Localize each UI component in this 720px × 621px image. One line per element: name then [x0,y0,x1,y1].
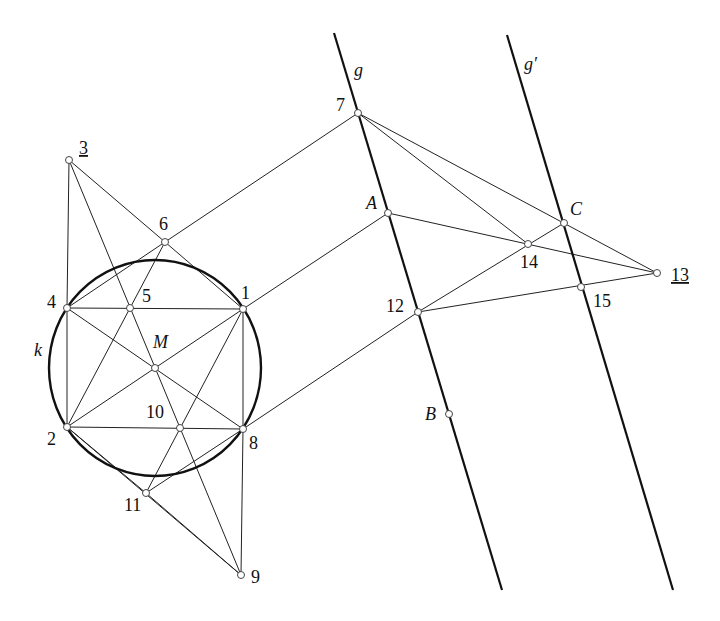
point-M [152,365,159,372]
point-label-3: 3 [79,138,88,158]
segment-7-13 [358,113,657,273]
line-g-prime [507,35,673,590]
segment-11-9 [146,493,241,575]
point-9 [238,572,245,579]
point-label-1: 1 [241,283,250,303]
segment-4-1 [67,308,243,309]
segment-8-9 [241,429,243,575]
point-label-6: 6 [159,214,168,234]
point-label-B: B [425,404,436,424]
point-label-4: 4 [47,292,56,312]
segment-7-14 [358,113,528,244]
circle-label-k: k [34,340,43,360]
point-6 [162,239,169,246]
line-label-g-prime: g′ [524,54,538,74]
point-1 [240,306,247,313]
line-label-g: g [354,60,363,80]
point-10 [177,425,184,432]
labels: k g g′ 123456789101112131415MABC [34,54,689,587]
point-label-5: 5 [142,286,151,306]
point-B [446,411,453,418]
point-label-12: 12 [386,296,404,316]
point-5 [127,305,134,312]
point-13 [654,270,661,277]
geometry-diagram: k g g′ 123456789101112131415MABC [0,0,720,621]
segment-11-2 [67,427,146,493]
segment-12-13 [418,273,657,312]
parallel-lines [334,33,673,590]
segment-8-11 [146,429,243,493]
point-12 [415,309,422,316]
segment-6-1 [165,242,243,309]
segment-6-2 [67,242,165,427]
point-3 [66,157,73,164]
point-label-10: 10 [146,402,164,422]
point-4 [64,305,71,312]
point-label-9: 9 [251,567,260,587]
point-label-2: 2 [47,429,56,449]
segment-1-A [243,213,388,309]
point-label-C: C [570,199,583,219]
point-label-M: M [152,332,169,352]
point-label-14: 14 [520,252,538,272]
point-label-7: 7 [336,95,345,115]
segment-3-4 [67,160,69,308]
point-7 [355,110,362,117]
segment-2-8 [67,427,243,429]
point-label-11: 11 [124,495,141,515]
point-14 [525,241,532,248]
point-C [561,220,568,227]
segment-8-12 [243,312,418,429]
point-11 [143,490,150,497]
point-label-A: A [365,193,378,213]
point-8 [240,426,247,433]
point-2 [64,424,71,431]
segment-3-6 [69,160,165,242]
point-label-8: 8 [249,433,258,453]
point-label-13: 13 [671,265,689,285]
point-label-15: 15 [593,291,611,311]
segment-6-7 [165,113,358,242]
point-15 [578,284,585,291]
point-A [385,210,392,217]
